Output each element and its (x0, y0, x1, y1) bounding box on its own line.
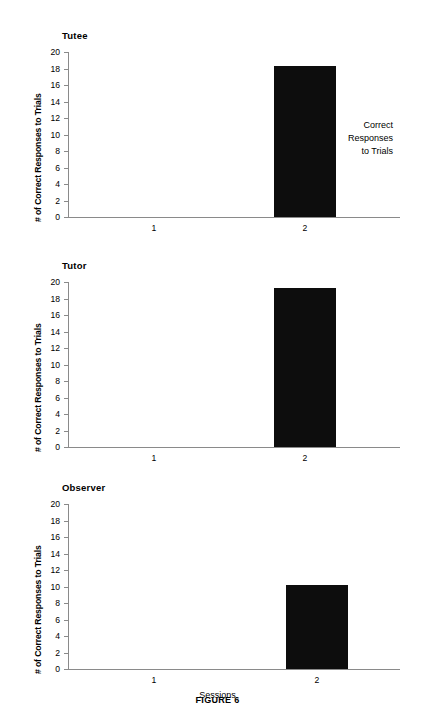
y-tick-label: 12 (38, 114, 60, 123)
y-tick-label: 18 (38, 517, 60, 526)
plot-area-observer: 20 18 16 14 12 10 8 6 4 2 0 1 2 (68, 504, 400, 669)
annotation-line-2: Responses (285, 132, 393, 145)
y-tick (64, 282, 68, 283)
y-axis-line (68, 504, 69, 670)
y-tick-label: 20 (38, 278, 60, 287)
y-tick-label: 0 (38, 443, 60, 452)
annotation-line-3: to Trials (285, 145, 393, 158)
y-tick-label: 0 (38, 213, 60, 222)
y-tick (64, 201, 68, 202)
y-tick-label: 10 (38, 131, 60, 140)
y-tick (64, 217, 68, 218)
y-tick (64, 381, 68, 382)
y-tick-label: 0 (38, 665, 60, 674)
y-tick-label: 2 (38, 197, 60, 206)
chart-panel-tutor: Tutor # of Correct Responses to Trials 2… (0, 230, 435, 470)
y-tick (64, 537, 68, 538)
bar-session-2 (274, 288, 336, 447)
y-axis-line (68, 282, 69, 448)
y-tick-label: 6 (38, 164, 60, 173)
y-tick-label: 2 (38, 427, 60, 436)
y-axis-line (68, 52, 69, 218)
chart-panel-tutee: Tutee # of Correct Responses to Trials 2… (0, 0, 435, 240)
y-tick-label: 8 (38, 599, 60, 608)
y-tick (64, 570, 68, 571)
y-tick-label: 6 (38, 616, 60, 625)
x-tick-label: 1 (139, 676, 169, 685)
y-tick (64, 636, 68, 637)
y-tick-label: 20 (38, 500, 60, 509)
y-tick-label: 16 (38, 311, 60, 320)
panel-title-tutee: Tutee (62, 30, 88, 41)
x-axis-line (68, 669, 400, 670)
y-tick-label: 20 (38, 48, 60, 57)
y-tick (64, 168, 68, 169)
plot-area-tutor: 20 18 16 14 12 10 8 6 4 2 0 1 2 (68, 282, 400, 447)
y-tick (64, 521, 68, 522)
y-tick (64, 52, 68, 53)
y-tick-label: 4 (38, 180, 60, 189)
y-tick-label: 4 (38, 410, 60, 419)
y-tick (64, 348, 68, 349)
y-tick-label: 18 (38, 65, 60, 74)
y-tick (64, 653, 68, 654)
x-tick-label: 2 (302, 676, 332, 685)
y-tick (64, 151, 68, 152)
y-tick (64, 184, 68, 185)
y-tick-label: 14 (38, 550, 60, 559)
y-tick (64, 447, 68, 448)
y-tick (64, 85, 68, 86)
y-tick-label: 8 (38, 377, 60, 386)
y-tick (64, 398, 68, 399)
chart-annotation: Correct Responses to Trials (285, 119, 393, 158)
y-tick (64, 587, 68, 588)
y-tick (64, 299, 68, 300)
bar-session-2 (286, 585, 348, 669)
panel-title-observer: Observer (62, 482, 105, 493)
y-tick (64, 135, 68, 136)
annotation-line-1: Correct (285, 119, 393, 132)
y-tick-label: 10 (38, 583, 60, 592)
y-tick (64, 554, 68, 555)
y-tick (64, 315, 68, 316)
panel-title-tutor: Tutor (62, 260, 87, 271)
y-tick-label: 2 (38, 649, 60, 658)
y-tick-label: 14 (38, 328, 60, 337)
chart-panel-observer: Observer # of Correct Responses to Trial… (0, 452, 435, 697)
y-tick-label: 4 (38, 632, 60, 641)
y-tick-label: 8 (38, 147, 60, 156)
y-tick-label: 12 (38, 566, 60, 575)
y-tick (64, 414, 68, 415)
y-tick (64, 431, 68, 432)
y-tick (64, 669, 68, 670)
y-tick (64, 504, 68, 505)
x-axis-line (68, 217, 400, 218)
y-tick (64, 365, 68, 366)
y-tick (64, 118, 68, 119)
y-tick-label: 16 (38, 533, 60, 542)
y-tick (64, 620, 68, 621)
y-tick-label: 14 (38, 98, 60, 107)
y-tick-label: 12 (38, 344, 60, 353)
y-tick-label: 10 (38, 361, 60, 370)
figure-6: Tutee # of Correct Responses to Trials 2… (0, 0, 435, 716)
y-tick-label: 6 (38, 394, 60, 403)
y-tick (64, 102, 68, 103)
y-tick (64, 603, 68, 604)
y-tick-label: 16 (38, 81, 60, 90)
y-tick (64, 69, 68, 70)
x-axis-line (68, 447, 400, 448)
y-tick-label: 18 (38, 295, 60, 304)
figure-caption: FIGURE 6 (0, 695, 435, 705)
y-tick (64, 332, 68, 333)
